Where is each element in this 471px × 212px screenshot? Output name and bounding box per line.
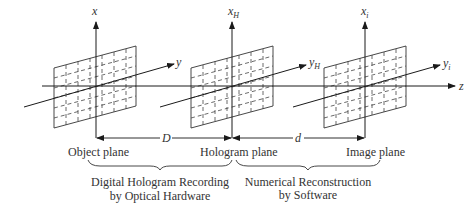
z-axis-label: z [458, 79, 464, 93]
reconstruction-brace [236, 160, 380, 170]
recording-stage-line2: by Optical Hardware [110, 189, 211, 203]
hologram-plane-label: Hologram plane [200, 145, 278, 159]
object-y-label: y [175, 55, 182, 69]
svg-text:D: D [161, 131, 171, 145]
image-y-label: yi [442, 56, 451, 72]
recording-brace [88, 160, 232, 170]
recording-stage-line1: Digital Hologram Recording [91, 175, 229, 189]
distance-D: D [97, 131, 231, 145]
hologram-x-label: xH [227, 4, 240, 20]
hologram-y-label: yH [308, 55, 321, 71]
svg-text:d: d [295, 131, 302, 145]
reconstruction-stage-line2: by Software [279, 188, 337, 202]
distance-d: d [233, 131, 364, 145]
object-x-label: x [91, 4, 98, 18]
holography-diagram: z x y xH yH xi yi D d Object plane Holog… [0, 0, 471, 212]
object-plane-label: Object plane [68, 145, 129, 159]
image-x-label: xi [360, 4, 369, 20]
reconstruction-stage-line1: Numerical Reconstruction [245, 175, 371, 189]
image-plane-label: Image plane [346, 145, 405, 159]
